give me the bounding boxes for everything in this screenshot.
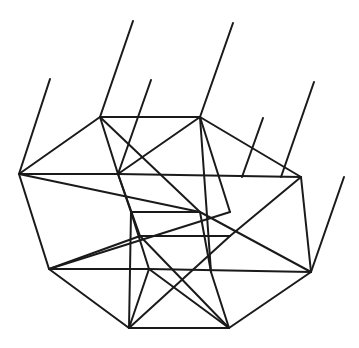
edge-line <box>301 177 311 272</box>
ray-line <box>200 23 233 117</box>
edge-line <box>200 117 211 272</box>
edge-line <box>19 174 200 212</box>
edge-line <box>129 212 131 328</box>
edge-line <box>19 117 100 174</box>
edge-line <box>200 212 311 272</box>
network-edges <box>19 117 311 328</box>
edge-line <box>49 269 129 328</box>
ray-line <box>281 82 314 177</box>
ray-line <box>242 118 263 177</box>
edge-line <box>19 174 49 269</box>
projecting-rays <box>19 21 344 272</box>
edge-line <box>118 174 301 177</box>
ray-line <box>311 177 344 272</box>
ray-line <box>19 79 50 174</box>
edge-line <box>229 272 311 328</box>
edge-line <box>230 177 301 236</box>
polyhedral-network-diagram <box>0 0 359 348</box>
ray-line <box>100 21 133 117</box>
edge-line <box>118 174 140 236</box>
